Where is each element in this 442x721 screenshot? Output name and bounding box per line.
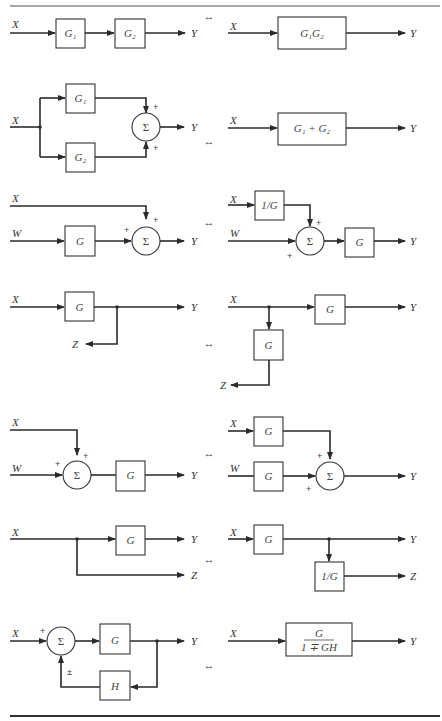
svg-text:+: + bbox=[153, 102, 158, 112]
svg-text:X: X bbox=[229, 293, 238, 305]
left-diagram: X W Σ + + G Y bbox=[10, 416, 199, 491]
svg-text:G: G bbox=[326, 303, 334, 315]
svg-text:G: G bbox=[356, 236, 364, 248]
right-diagram: X G Y 1/G Z bbox=[228, 525, 418, 591]
svg-text:X: X bbox=[229, 417, 238, 429]
svg-text:+: + bbox=[287, 251, 292, 261]
svg-text:G: G bbox=[111, 634, 119, 646]
svg-text:Σ: Σ bbox=[74, 469, 80, 481]
input-label: X bbox=[11, 18, 20, 30]
svg-text:+: + bbox=[317, 451, 322, 461]
svg-text:Y: Y bbox=[410, 301, 418, 313]
svg-text:Σ: Σ bbox=[58, 635, 64, 647]
svg-text:G₁: G₁ bbox=[75, 92, 87, 104]
right-diagram: X G W G Σ + + Y bbox=[228, 417, 418, 494]
svg-text:X: X bbox=[11, 416, 20, 428]
equivalence-icon: ↔ bbox=[204, 10, 215, 22]
svg-text:W: W bbox=[12, 227, 22, 239]
svg-text:Z: Z bbox=[410, 570, 417, 582]
svg-text:X: X bbox=[229, 193, 238, 205]
svg-text:G: G bbox=[265, 339, 273, 351]
svg-text:G₂: G₂ bbox=[124, 27, 136, 39]
svg-text:G: G bbox=[315, 627, 323, 639]
right-diagram: X G₁ + G₂ Y bbox=[228, 113, 418, 145]
svg-text:Y: Y bbox=[410, 235, 418, 247]
svg-text:X: X bbox=[229, 114, 238, 126]
svg-text:G: G bbox=[265, 425, 273, 437]
svg-text:Y: Y bbox=[191, 469, 199, 481]
row-summing-ahead: X W G Σ + + Y ↔ X 1/G W Σ + + bbox=[10, 191, 418, 261]
svg-text:+: + bbox=[124, 225, 129, 235]
svg-text:+: + bbox=[55, 459, 60, 469]
svg-text:Σ: Σ bbox=[307, 235, 313, 247]
svg-text:X: X bbox=[11, 114, 20, 126]
svg-text:G₂: G₂ bbox=[75, 151, 87, 163]
row-feedback: X + Σ G Y H ± ↔ X G 1 ∓ GH Y bbox=[10, 623, 418, 700]
svg-text:G: G bbox=[265, 470, 273, 482]
left-diagram: X G Y Z bbox=[10, 292, 199, 350]
svg-text:G: G bbox=[127, 469, 135, 481]
svg-text:W: W bbox=[230, 227, 240, 239]
svg-text:Σ: Σ bbox=[143, 121, 149, 133]
left-diagram: X G Y Z bbox=[10, 526, 199, 581]
svg-text:+: + bbox=[153, 143, 158, 153]
row-cascade: X G₁ G₂ Y ↔ X G₁G₂ Y bbox=[10, 10, 418, 49]
svg-text:Y: Y bbox=[410, 635, 418, 647]
svg-text:+: + bbox=[306, 484, 311, 494]
svg-text:Σ: Σ bbox=[143, 235, 149, 247]
svg-text:Y: Y bbox=[191, 301, 199, 313]
svg-text:G: G bbox=[76, 301, 84, 313]
svg-text:1 ∓ GH: 1 ∓ GH bbox=[301, 641, 338, 653]
left-diagram: X W G Σ + + Y bbox=[10, 192, 199, 256]
svg-text:X: X bbox=[11, 293, 20, 305]
svg-text:Z: Z bbox=[72, 338, 79, 350]
svg-text:Z: Z bbox=[191, 569, 198, 581]
svg-text:Y: Y bbox=[410, 533, 418, 545]
row-parallel: X G₁ G₂ Σ + + Y ↔ X G₁ + G₂ Y bbox=[10, 84, 418, 172]
svg-text:G: G bbox=[76, 235, 84, 247]
svg-text:X: X bbox=[11, 627, 20, 639]
svg-text:G₁: G₁ bbox=[65, 27, 77, 39]
svg-text:W: W bbox=[230, 462, 240, 474]
svg-text:X: X bbox=[229, 20, 238, 32]
svg-text:X: X bbox=[229, 627, 238, 639]
row-pickoff-ahead: X G Y Z ↔ X G Y G Z bbox=[10, 292, 418, 391]
svg-text:G: G bbox=[265, 533, 273, 545]
right-diagram: X G₁G₂ Y bbox=[228, 17, 418, 49]
equivalence-icon: ↔ bbox=[204, 553, 215, 565]
svg-text:G₁G₂: G₁G₂ bbox=[300, 27, 324, 39]
svg-text:X: X bbox=[229, 526, 238, 538]
svg-text:Y: Y bbox=[191, 533, 199, 545]
svg-text:1/G: 1/G bbox=[321, 570, 338, 582]
right-diagram: X G Y G Z bbox=[220, 293, 418, 391]
svg-text:Y: Y bbox=[191, 121, 199, 133]
left-diagram: X G₁ G₂ Σ + + Y bbox=[10, 84, 199, 172]
left-diagram: X G₁ G₂ Y bbox=[10, 18, 199, 48]
svg-text:1/G: 1/G bbox=[261, 199, 278, 211]
output-label: Y bbox=[191, 27, 199, 39]
svg-text:W: W bbox=[12, 462, 22, 474]
svg-text:Z: Z bbox=[220, 379, 227, 391]
svg-text:Y: Y bbox=[410, 122, 418, 134]
right-diagram: X G 1 ∓ GH Y bbox=[228, 623, 418, 656]
equivalence-icon: ↔ bbox=[204, 447, 215, 459]
row-summing-behind: X W Σ + + G Y ↔ X G W G Σ bbox=[10, 416, 418, 494]
svg-text:X: X bbox=[11, 526, 20, 538]
equivalence-icon: ↔ bbox=[204, 337, 215, 349]
svg-text:Y: Y bbox=[410, 470, 418, 482]
svg-text:+: + bbox=[316, 218, 321, 228]
equivalence-icon: ↔ bbox=[204, 135, 215, 147]
right-diagram: X 1/G W Σ + + G Y bbox=[228, 191, 418, 261]
svg-text:Y: Y bbox=[191, 635, 199, 647]
svg-text:+: + bbox=[83, 451, 88, 461]
equivalence-icon: ↔ bbox=[204, 659, 215, 671]
block-diagram-table: X G₁ G₂ Y ↔ X G₁G₂ Y X bbox=[0, 0, 442, 721]
svg-text:Y: Y bbox=[191, 235, 199, 247]
svg-text:Σ: Σ bbox=[327, 470, 333, 482]
svg-text:X: X bbox=[11, 192, 20, 204]
svg-text:G: G bbox=[127, 534, 135, 546]
row-pickoff-behind: X G Y Z ↔ X G Y 1/G Z bbox=[10, 525, 418, 591]
svg-text:G₁ + G₂: G₁ + G₂ bbox=[294, 122, 331, 134]
svg-text:±: ± bbox=[67, 667, 72, 677]
svg-text:Y: Y bbox=[410, 27, 418, 39]
